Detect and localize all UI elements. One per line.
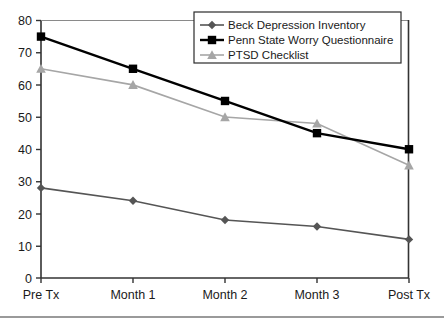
x-tick-label: Month 2 xyxy=(202,288,247,302)
x-tick-label: Month 3 xyxy=(294,288,339,302)
line-chart: 80 70 60 50 40 30 20 10 0 Pre Tx Month 1… xyxy=(0,0,444,324)
chart-svg: 80 70 60 50 40 30 20 10 0 Pre Tx Month 1… xyxy=(0,0,444,324)
y-tick-label: 40 xyxy=(18,143,32,157)
series-triangle xyxy=(36,64,414,169)
data-point xyxy=(37,184,45,192)
legend-item-label: PTSD Checklist xyxy=(228,49,309,61)
data-point xyxy=(313,222,321,230)
y-tick-label: 70 xyxy=(18,46,32,60)
y-tick-labels: 80 70 60 50 40 30 20 10 0 xyxy=(18,14,32,286)
series-line xyxy=(41,188,409,240)
data-point xyxy=(405,235,413,243)
data-point xyxy=(129,197,137,205)
y-tick-label: 10 xyxy=(18,240,32,254)
legend-square-marker xyxy=(208,36,216,44)
y-tick-label: 30 xyxy=(18,175,32,189)
legend-item-label: Beck Depression Inventory xyxy=(228,19,366,31)
series-diamond xyxy=(37,184,413,244)
x-tick-labels: Pre Tx Month 1 Month 2 Month 3 Post Tx xyxy=(23,288,431,302)
x-tick-label: Month 1 xyxy=(110,288,155,302)
data-series-layer xyxy=(36,32,414,243)
data-point xyxy=(221,216,229,224)
y-tick-label: 60 xyxy=(18,79,32,93)
data-point xyxy=(129,65,137,73)
footer-divider xyxy=(0,316,444,318)
data-point xyxy=(405,145,413,153)
y-tick-label: 0 xyxy=(25,272,32,286)
data-point xyxy=(37,32,45,40)
data-point xyxy=(221,97,229,105)
y-tick-label: 20 xyxy=(18,208,32,222)
y-tick-label: 50 xyxy=(18,111,32,125)
x-tick-label: Post Tx xyxy=(388,288,431,302)
data-point xyxy=(36,64,46,73)
legend-item-label: Penn State Worry Questionnaire xyxy=(228,34,393,46)
x-tick-label: Pre Tx xyxy=(23,288,60,302)
data-point xyxy=(404,161,414,170)
y-tick-label: 80 xyxy=(18,14,32,28)
data-point xyxy=(313,129,321,137)
